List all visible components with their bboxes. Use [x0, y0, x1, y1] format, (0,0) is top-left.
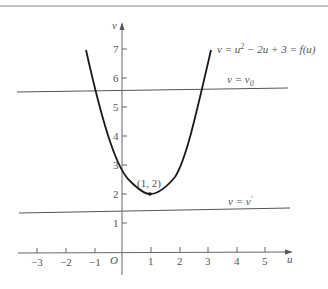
svg-text:6: 6 [113, 72, 119, 84]
y-tick-labels: 7 6 5 4 3 2 1 [113, 43, 119, 229]
svg-text:4: 4 [113, 130, 119, 142]
curve-equation-label: v = u2 − 2u + 3 = f(u) [217, 42, 316, 56]
parabola-diagram: v u O 7 6 5 4 3 2 1 −3 −2 −1 1 2 3 4 5 (… [0, 0, 328, 289]
line-v0-label: v = v0 [227, 73, 254, 88]
svg-text:−2: −2 [60, 256, 72, 268]
svg-text:7: 7 [113, 43, 119, 55]
line-v0 [17, 88, 288, 92]
x-tick-labels: −3 −2 −1 1 2 3 4 5 [31, 255, 268, 268]
parabola-curve [86, 50, 211, 194]
svg-text:2: 2 [177, 255, 183, 267]
svg-text:3: 3 [205, 255, 211, 267]
svg-text:1: 1 [148, 255, 154, 267]
y-axis-arrow-icon [120, 22, 125, 30]
svg-text:5: 5 [262, 255, 268, 267]
svg-text:5: 5 [113, 101, 119, 113]
y-axis-label: v [112, 19, 117, 31]
x-axis [18, 247, 293, 255]
vertex-label: (1, 2) [137, 177, 161, 190]
origin-label: O [110, 254, 118, 266]
x-axis-label: u [287, 253, 293, 265]
vertex-point [148, 192, 152, 196]
y-axis [120, 22, 128, 275]
svg-text:1: 1 [113, 217, 119, 229]
svg-text:3: 3 [113, 159, 119, 171]
svg-text:4: 4 [234, 255, 240, 267]
line-v-prime [19, 208, 290, 213]
line-v-prime-label: v = v′ [228, 195, 253, 207]
svg-text:2: 2 [113, 188, 119, 200]
svg-text:−3: −3 [31, 256, 43, 268]
svg-text:−1: −1 [89, 256, 101, 268]
